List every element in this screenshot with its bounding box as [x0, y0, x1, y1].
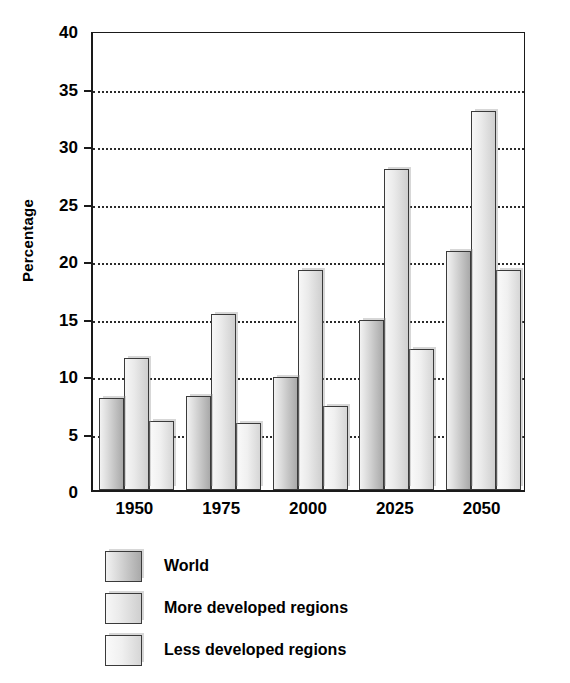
y-tick-label-10: 10 [32, 369, 78, 386]
legend-item-less-developed-regions: Less developed regions [105, 629, 505, 671]
y-tick-label-0: 0 [32, 484, 78, 501]
y-tick-mark-35 [84, 90, 91, 92]
legend-label: More developed regions [164, 599, 348, 617]
bar-1950-world [99, 398, 124, 490]
x-tick-label-2050: 2050 [438, 500, 525, 517]
legend-swatch-world [105, 551, 142, 582]
legend-item-more-developed-regions: More developed regions [105, 587, 505, 629]
bar-2025-more-developed-regions [384, 169, 409, 490]
y-tick-label-30: 30 [32, 139, 78, 156]
legend-item-world: World [105, 545, 505, 587]
bar-1975-more-developed-regions [211, 314, 236, 490]
y-tick-mark-5 [84, 435, 91, 437]
y-tick-mark-15 [84, 320, 91, 322]
bar-2025-world [359, 320, 384, 490]
bar-1975-world [186, 396, 211, 490]
y-tick-label-35: 35 [32, 82, 78, 99]
x-tick-label-2025: 2025 [351, 500, 438, 517]
y-tick-mark-25 [84, 205, 91, 207]
bar-2050-less-developed-regions [496, 270, 521, 490]
legend-swatch-more-developed-regions [105, 593, 142, 624]
bar-1950-less-developed-regions [149, 421, 174, 490]
plot-area [91, 32, 525, 492]
chart-legend: WorldMore developed regionsLess develope… [105, 545, 505, 671]
bar-2000-more-developed-regions [298, 270, 323, 490]
legend-label: Less developed regions [164, 641, 346, 659]
y-tick-mark-30 [84, 147, 91, 149]
y-tick-label-5: 5 [32, 427, 78, 444]
x-tick-label-1950: 1950 [91, 500, 178, 517]
bar-2050-world [446, 251, 471, 490]
bar-1975-less-developed-regions [236, 423, 261, 490]
y-tick-label-25: 25 [32, 197, 78, 214]
bar-chart-figure: Percentage 0510152025303540 195019752000… [0, 0, 570, 683]
y-tick-label-15: 15 [32, 312, 78, 329]
bar-2050-more-developed-regions [471, 111, 496, 491]
bar-group-2050 [446, 33, 521, 490]
bar-group-1950 [99, 33, 174, 490]
bar-group-2025 [359, 33, 434, 490]
y-tick-mark-20 [84, 262, 91, 264]
bar-group-2000 [273, 33, 348, 490]
bar-2000-less-developed-regions [323, 406, 348, 490]
legend-label: World [164, 557, 209, 575]
x-tick-label-2000: 2000 [265, 500, 352, 517]
bar-2000-world [273, 377, 298, 490]
bar-2025-less-developed-regions [409, 349, 434, 490]
x-tick-label-1975: 1975 [178, 500, 265, 517]
y-tick-label-40: 40 [32, 24, 78, 41]
bar-1950-more-developed-regions [124, 358, 149, 490]
legend-swatch-less-developed-regions [105, 635, 142, 666]
y-tick-mark-10 [84, 377, 91, 379]
y-tick-label-20: 20 [32, 254, 78, 271]
bar-group-1975 [186, 33, 261, 490]
